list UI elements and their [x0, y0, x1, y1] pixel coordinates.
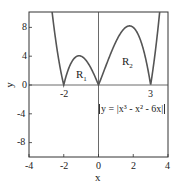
ytick-neg4: -4: [17, 109, 25, 119]
xtick-0: 0: [96, 161, 101, 171]
ytick-neg8: -8: [17, 137, 25, 147]
ytick-8: 8: [22, 22, 27, 32]
root-label-3: 3: [148, 89, 153, 99]
xtick-2: 2: [131, 161, 136, 171]
y-axis-label: y: [4, 82, 14, 88]
function-curve: [52, 0, 165, 85]
root-label-neg2: -2: [60, 89, 68, 99]
ytick-4: 4: [22, 51, 27, 61]
xtick-neg2: -2: [60, 161, 68, 171]
xtick-neg4: -4: [25, 161, 33, 171]
equation-label: y = |x³ - x² - 6x|: [99, 104, 165, 114]
region-label-r1: R1: [76, 69, 87, 84]
ytick-0: 0: [22, 80, 27, 90]
x-axis-label: x: [95, 172, 101, 182]
xtick-4: 4: [165, 161, 170, 171]
region-label-r2: R2: [122, 56, 133, 71]
